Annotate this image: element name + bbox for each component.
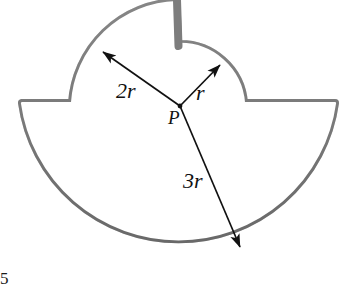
label-3r: 3r [183, 170, 203, 192]
label-2r: 2r [116, 80, 136, 102]
label-point-p: P [168, 108, 180, 127]
figure-canvas [0, 0, 356, 293]
corner-page-mark: 5 [0, 270, 9, 287]
label-r: r [196, 82, 205, 104]
geometry-figure: 2r r 3r P 5 [0, 0, 356, 293]
